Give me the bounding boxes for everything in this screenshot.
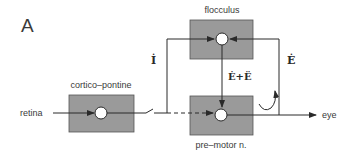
left-feedback-label: İ — [151, 53, 156, 67]
oculomotor-circuit-diagram: A flocculus cortico–pontine pre–motor n.… — [0, 0, 355, 156]
flocculus-label: flocculus — [204, 5, 240, 15]
premotor-label: pre–motor n. — [195, 140, 246, 150]
retina-label: retina — [20, 108, 43, 118]
switch-icon — [146, 109, 153, 113]
cortico-pontine-node — [95, 107, 107, 119]
flocculus-summing-node — [216, 33, 228, 45]
cortico-pontine-block: cortico–pontine — [69, 80, 134, 132]
panel-label: A — [21, 15, 34, 36]
right-feedback-label: Ė — [287, 53, 295, 67]
premotor-summing-node — [215, 109, 227, 121]
cortico-pontine-label: cortico–pontine — [70, 80, 131, 90]
eye-label: eye — [322, 110, 337, 120]
descending-signal-label: Ė+Ë — [228, 70, 252, 82]
loop-arrow-icon — [259, 91, 276, 110]
